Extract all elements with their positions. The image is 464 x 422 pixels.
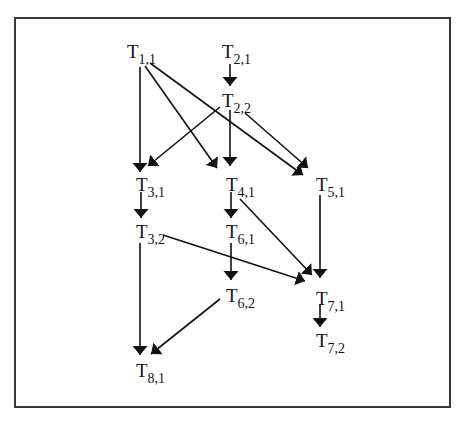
edge-T1_1-to-T4_1 [145,66,217,168]
node-T7_2: T7,2 [316,330,345,356]
node-T8_1: T8,1 [136,360,165,386]
dependency-graph: T1,1T2,1T2,2T3,1T4,1T5,1T3,2T6,1T6,2T7,1… [0,0,464,422]
nodes-group: T1,1T2,1T2,2T3,1T4,1T5,1T3,2T6,1T6,2T7,1… [127,41,345,386]
edge-T1_1-to-T5_1 [150,63,303,175]
edge-T6_2-to-T8_1 [151,299,220,354]
node-T1_1: T1,1 [127,41,156,67]
edge-T2_2-to-T5_1 [245,113,308,168]
node-T2_1: T2,1 [222,41,251,67]
node-T2_2: T2,2 [222,90,251,116]
node-T6_2: T6,2 [226,285,255,311]
